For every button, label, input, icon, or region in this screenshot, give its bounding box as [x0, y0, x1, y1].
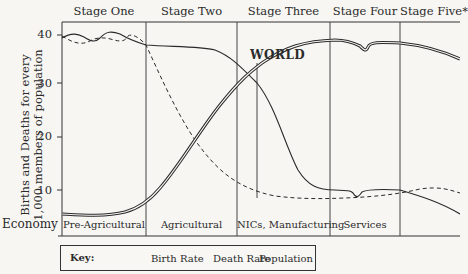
- economy-pre-agricultural: Pre-Agricultural: [62, 219, 146, 230]
- economy-services: Services: [330, 219, 400, 230]
- economy-manufacturing: NICs, Manufacturing: [237, 219, 330, 230]
- world-annotation: WORLD: [250, 48, 305, 62]
- legend-title: Key:: [70, 252, 94, 263]
- economy-agricultural: Agricultural: [146, 219, 237, 230]
- legend-birth-rate: Birth Rate: [151, 253, 204, 264]
- legend-population: Population: [259, 253, 313, 264]
- legend: Key: Birth Rate Death Rate Population: [60, 245, 316, 271]
